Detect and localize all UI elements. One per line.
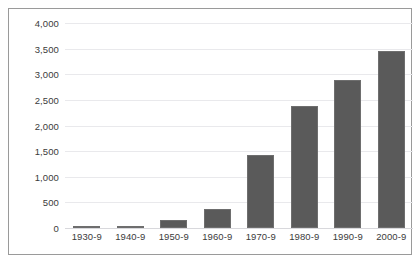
x-axis-tick-label: 1940-9 <box>115 231 145 242</box>
bar-slot <box>196 23 240 228</box>
plot-area <box>65 23 413 228</box>
bar[interactable] <box>73 226 100 228</box>
y-axis-tick-label: 4,000 <box>35 18 59 29</box>
bar[interactable] <box>378 51 405 228</box>
y-axis-tick-label: 3,000 <box>35 69 59 80</box>
bar[interactable] <box>160 220 187 228</box>
y-axis-tick-label: 0 <box>54 223 59 234</box>
bar[interactable] <box>247 155 274 228</box>
y-axis-tick-label: 2,500 <box>35 94 59 105</box>
x-axis-tick-label: 1990-9 <box>333 231 363 242</box>
x-axis-tick-labels: 1930-91940-91950-91960-91970-91980-91990… <box>65 231 413 247</box>
x-axis-tick-label: 1970-9 <box>246 231 276 242</box>
chart-frame: 05001,0001,5002,0002,5003,0003,5004,000 … <box>8 8 412 255</box>
y-axis-tick-label: 500 <box>43 197 59 208</box>
axis-baseline <box>65 228 413 229</box>
bar-slot <box>370 23 414 228</box>
bar[interactable] <box>117 226 144 228</box>
bar-series <box>65 23 413 228</box>
y-axis-tick-label: 1,000 <box>35 171 59 182</box>
x-axis-tick-label: 1950-9 <box>159 231 189 242</box>
bar-slot <box>152 23 196 228</box>
bar-slot <box>283 23 327 228</box>
bar-chart-figure: 05001,0001,5002,0002,5003,0003,5004,000 … <box>0 0 420 263</box>
bar[interactable] <box>291 106 318 228</box>
y-axis-tick-label: 1,500 <box>35 146 59 157</box>
bar-slot <box>65 23 109 228</box>
bar-slot <box>239 23 283 228</box>
y-axis-tick-label: 2,000 <box>35 120 59 131</box>
bar-slot <box>109 23 153 228</box>
x-axis-tick-label: 2000-9 <box>376 231 406 242</box>
x-axis-tick-label: 1930-9 <box>72 231 102 242</box>
bar[interactable] <box>334 80 361 228</box>
bar[interactable] <box>204 209 231 228</box>
x-axis-tick-label: 1960-9 <box>202 231 232 242</box>
y-axis-tick-label: 3,500 <box>35 43 59 54</box>
y-axis-tick-labels: 05001,0001,5002,0002,5003,0003,5004,000 <box>17 23 59 228</box>
x-axis-tick-label: 1980-9 <box>289 231 319 242</box>
bar-slot <box>326 23 370 228</box>
